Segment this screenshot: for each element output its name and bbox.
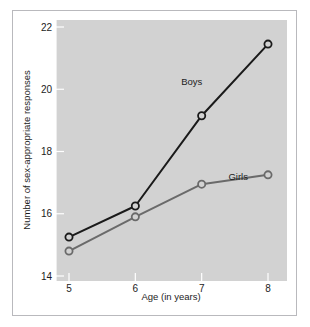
y-tick-label: 20: [41, 84, 53, 95]
data-point-marker: [65, 248, 72, 255]
y-axis-label: Number of sex-appropriate responses: [21, 70, 32, 230]
plot-area-background: [56, 20, 287, 281]
x-tick-label: 8: [265, 283, 271, 294]
data-point-marker: [198, 112, 205, 119]
data-point-marker: [132, 202, 139, 209]
y-tick-label: 18: [41, 146, 53, 157]
series-annotation: Girls: [228, 171, 248, 182]
figure-container: 1416182022 5678 BoysGirls Age (in years)…: [0, 0, 310, 327]
x-tick-label: 5: [66, 283, 72, 294]
data-point-marker: [198, 181, 205, 188]
y-tick-label: 16: [41, 208, 53, 219]
y-axis-tick-labels: 1416182022: [41, 22, 53, 282]
series-annotation: Boys: [181, 76, 202, 87]
y-tick-label: 14: [41, 271, 53, 282]
data-point-marker: [132, 213, 139, 220]
data-point-marker: [264, 41, 271, 48]
y-tick-label: 22: [41, 22, 53, 33]
data-point-marker: [264, 171, 271, 178]
x-axis-label: Age (in years): [141, 291, 200, 302]
data-point-marker: [65, 233, 72, 240]
x-tick-label: 6: [133, 283, 139, 294]
line-chart: 1416182022 5678 BoysGirls Age (in years)…: [0, 0, 310, 327]
